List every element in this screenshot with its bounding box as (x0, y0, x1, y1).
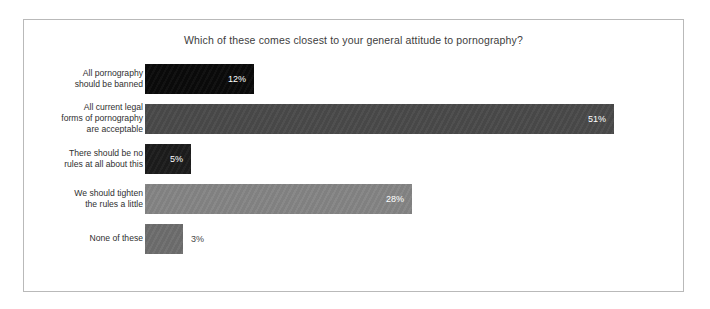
bar-track: 28% (145, 184, 683, 214)
bar-track: 5% (145, 144, 683, 174)
category-label-all-current-legal-forms-are-acceptable: All current legal forms of pornography a… (0, 102, 143, 136)
bar-row: There should be no rules at all about th… (24, 144, 683, 174)
category-label-none-of-these: None of these (0, 233, 143, 244)
category-label-we-should-tighten-the-rules-a-little: We should tighten the rules a little (0, 188, 143, 210)
bar-value-label: 28% (386, 194, 404, 204)
bar-row: We should tighten the rules a little 28% (24, 184, 683, 214)
chart-frame: Which of these comes closest to your gen… (23, 19, 684, 292)
bar-track: 12% (145, 64, 683, 94)
bar-value-label: 5% (170, 154, 183, 164)
bar-value-label: 12% (228, 74, 246, 84)
bar-none-of-these[interactable] (145, 224, 183, 254)
bar-row: None of these 3% (24, 224, 683, 254)
bar-row: All pornography should be banned 12% (24, 64, 683, 94)
bar-value-label: 3% (191, 234, 204, 244)
chart-title: Which of these comes closest to your gen… (24, 34, 683, 46)
bar-track: 3% (145, 224, 683, 254)
bar-all-current-legal-forms-are-acceptable[interactable]: 51% (145, 104, 614, 134)
category-label-there-should-be-no-rules: There should be no rules at all about th… (0, 148, 143, 170)
bar-all-pornography-should-be-banned[interactable]: 12% (145, 64, 254, 94)
bar-value-label: 51% (588, 114, 606, 124)
bar-chart-plot-area: All pornography should be banned 12% All… (24, 64, 683, 264)
bar-track: 51% (145, 104, 683, 134)
bar-row: All current legal forms of pornography a… (24, 104, 683, 134)
bar-there-should-be-no-rules[interactable]: 5% (145, 144, 191, 174)
category-label-all-pornography-should-be-banned: All pornography should be banned (0, 68, 143, 90)
bar-we-should-tighten-the-rules-a-little[interactable]: 28% (145, 184, 412, 214)
